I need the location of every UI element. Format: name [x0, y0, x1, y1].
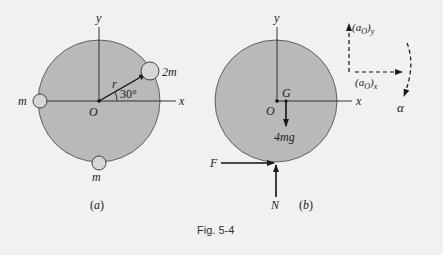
mass-left: [33, 94, 47, 108]
mass-2m-label: 2m: [162, 65, 177, 79]
mass-bottom: [92, 156, 106, 170]
panel-a: y x O r 30° 2m m m (a): [18, 11, 185, 212]
weight-label: 4mg: [274, 130, 295, 144]
a-oy-label: (aO)y: [352, 21, 375, 36]
mass-bottom-label: m: [92, 170, 101, 184]
x-axis-label-a: x: [178, 94, 185, 108]
diagram-canvas: y x O r 30° 2m m m (a) y x O G 4mg: [0, 0, 443, 255]
mass-left-label: m: [18, 94, 27, 108]
y-axis-label-a: y: [95, 11, 102, 25]
panel-b-label: (b): [299, 198, 313, 212]
origin-label-b: O: [266, 104, 275, 118]
y-axis-label-b: y: [273, 11, 280, 25]
radius-label: r: [112, 77, 117, 91]
figure-5-4: y x O r 30° 2m m m (a) y x O G 4mg: [0, 0, 443, 255]
mass-2m: [141, 62, 159, 80]
origin-dot-b: [275, 99, 279, 103]
x-axis-label-b: x: [355, 94, 362, 108]
angle-label: 30°: [120, 87, 137, 101]
g-label: G: [282, 86, 291, 100]
friction-label: F: [209, 156, 218, 170]
panel-a-label: (a): [90, 198, 104, 212]
origin-label-a: O: [89, 105, 98, 119]
panel-b: y x O G 4mg F N (b): [209, 11, 362, 212]
a-ox-label: (aO)x: [355, 76, 378, 91]
alpha-arrow: [404, 43, 411, 96]
normal-label: N: [270, 198, 280, 212]
alpha-label: α: [397, 100, 405, 115]
figure-caption: Fig. 5-4: [197, 224, 234, 236]
